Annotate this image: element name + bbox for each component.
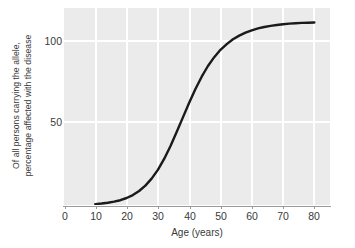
x-tick-label-30: 30 [146, 210, 170, 222]
x-tick-label-40: 40 [178, 210, 202, 222]
vertical-gridlines [96, 8, 314, 205]
x-tick-label-0: 0 [53, 210, 77, 222]
x-tick-mark-60 [252, 206, 253, 209]
x-tick-mark-40 [190, 206, 191, 209]
x-axis-title: Age (years) [64, 227, 330, 238]
x-tick-mark-30 [158, 206, 159, 209]
x-axis-line [63, 206, 331, 207]
x-tick-label-10: 10 [84, 210, 108, 222]
plot-area [64, 8, 330, 205]
x-tick-mark-70 [283, 206, 284, 209]
data-series-line [95, 23, 314, 205]
horizontal-gridlines [64, 41, 330, 122]
x-tick-mark-0 [65, 206, 66, 209]
x-tick-label-50: 50 [209, 210, 233, 222]
x-tick-label-20: 20 [115, 210, 139, 222]
y-tick-label-100: 100 [36, 36, 62, 46]
plot-svg [64, 8, 330, 205]
x-tick-mark-10 [96, 206, 97, 209]
x-tick-label-60: 60 [240, 210, 264, 222]
y-tick-label-50: 50 [36, 117, 62, 127]
x-tick-mark-20 [127, 206, 128, 209]
y-axis-title-line-1: Of all persons carrying the allele, [12, 34, 24, 176]
chart-figure: Of all persons carrying the allele, perc… [0, 0, 355, 248]
x-tick-label-70: 70 [271, 210, 295, 222]
x-tick-mark-50 [221, 206, 222, 209]
x-tick-mark-80 [314, 206, 315, 209]
x-tick-label-80: 80 [302, 210, 326, 222]
